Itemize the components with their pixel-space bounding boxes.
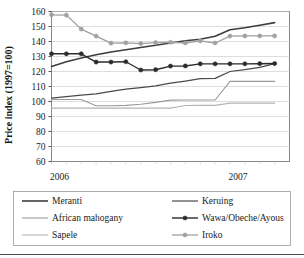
data-point	[213, 41, 217, 45]
data-point	[258, 62, 262, 66]
data-point	[109, 60, 113, 64]
chart-figure: Price index (1997=100) 16015014013012011…	[0, 0, 304, 258]
data-point	[139, 68, 143, 72]
data-point	[79, 27, 83, 31]
x-tick-label: 2007	[229, 172, 248, 182]
price-index-line-chart: Price index (1997=100) 16015014013012011…	[0, 0, 304, 258]
legend-swatch-marker	[183, 216, 187, 220]
y-tick-label: 70	[36, 142, 46, 152]
y-tick-label: 110	[32, 82, 46, 92]
data-point	[273, 61, 277, 65]
legend-label: Meranti	[52, 196, 82, 206]
data-point	[198, 62, 202, 66]
data-point	[243, 62, 247, 66]
legend-label: Iroko	[202, 230, 223, 240]
legend-swatch-marker	[183, 233, 187, 237]
data-point	[154, 40, 158, 44]
data-point	[228, 62, 232, 66]
data-point	[94, 60, 98, 64]
data-point	[139, 42, 143, 46]
data-point	[124, 41, 128, 45]
data-point	[168, 40, 172, 44]
y-tick-label: 120	[31, 67, 46, 77]
data-point	[183, 41, 187, 45]
y-tick-label: 60	[36, 157, 46, 167]
data-point	[243, 34, 247, 38]
y-axis-title: Price index (1997=100)	[3, 46, 15, 144]
y-tick-label: 90	[36, 112, 46, 122]
y-axis-title-text: Price index (1997=100)	[3, 46, 15, 144]
x-tick-label: 2006	[50, 172, 69, 182]
data-point	[154, 68, 158, 72]
x-axis: 20062007	[50, 162, 275, 182]
legend-label: African mahogany	[52, 213, 123, 223]
y-tick-label: 100	[31, 97, 46, 107]
y-tick-label: 130	[31, 52, 46, 62]
data-point	[49, 52, 53, 56]
y-tick-label: 140	[31, 37, 46, 47]
legend-label: Sapele	[52, 230, 77, 240]
data-point	[64, 52, 68, 56]
data-point	[94, 34, 98, 38]
legend-label: Wawa/Obeche/Ayous	[202, 213, 284, 223]
data-point	[273, 34, 277, 38]
data-point	[124, 60, 128, 64]
data-point	[49, 13, 53, 17]
y-tick-label: 150	[31, 22, 46, 32]
data-point	[79, 52, 83, 56]
data-point	[109, 41, 113, 45]
data-point	[258, 34, 262, 38]
data-point	[64, 13, 68, 17]
data-point	[198, 39, 202, 43]
data-point	[168, 64, 172, 68]
y-tick-label: 160	[31, 7, 46, 17]
y-tick-label: 80	[36, 127, 46, 137]
data-point	[228, 34, 232, 38]
legend-label: Keruing	[202, 196, 233, 206]
data-point	[183, 64, 187, 68]
data-point	[213, 62, 217, 66]
